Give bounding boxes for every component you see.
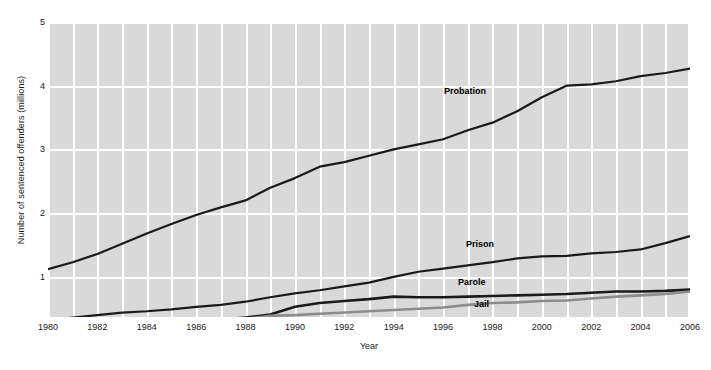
plot-area (48, 22, 690, 317)
series-lines (48, 22, 690, 317)
x-tick-label: 1996 (423, 322, 463, 333)
y-tick-label: 4 (25, 81, 45, 91)
series-label-parole: Parole (458, 277, 486, 287)
x-tick-label: 1986 (176, 322, 216, 333)
x-tick-label: 1984 (127, 322, 167, 333)
y-tick-label: 3 (25, 144, 45, 154)
x-tick-label: 2000 (522, 322, 562, 333)
series-line-prison (48, 236, 690, 317)
x-tick-label: 2004 (621, 322, 661, 333)
x-tick-label: 1982 (77, 322, 117, 333)
x-tick-label: 2006 (670, 322, 710, 333)
series-line-jail (48, 292, 690, 317)
x-axis-title: Year (48, 341, 690, 351)
x-tick-label: 2002 (571, 322, 611, 333)
x-tick-label: 1998 (472, 322, 512, 333)
x-tick-label: 1994 (374, 322, 414, 333)
series-label-probation: Probation (444, 86, 486, 96)
series-label-jail: Jail (474, 299, 489, 309)
x-tick-label: 1992 (324, 322, 364, 333)
series-line-probation (48, 69, 690, 270)
chart-figure: Number of sentenced offenders (millions)… (0, 0, 711, 370)
y-tick-label: 2 (25, 208, 45, 218)
x-tick-label: 1980 (28, 322, 68, 333)
x-tick-label: 1988 (226, 322, 266, 333)
series-line-parole (48, 290, 690, 317)
x-tick-label: 1990 (275, 322, 315, 333)
series-label-prison: Prison (466, 239, 494, 249)
y-tick-label: 1 (25, 272, 45, 282)
y-tick-label: 5 (25, 17, 45, 27)
